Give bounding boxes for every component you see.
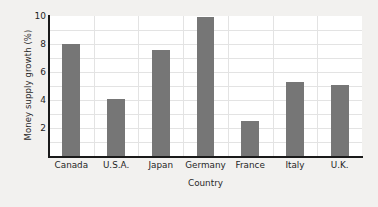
y-axis-line bbox=[48, 15, 50, 157]
y-tick-label: 4 bbox=[40, 95, 46, 105]
x-tick-label-u-k: U.K. bbox=[331, 160, 349, 170]
x-axis-line bbox=[48, 156, 363, 158]
plot-area bbox=[49, 16, 362, 156]
bar-u-s-a[interactable] bbox=[107, 99, 125, 156]
bar-germany[interactable] bbox=[197, 17, 215, 156]
y-axis-tick-labels: 246810 bbox=[28, 16, 46, 156]
x-tick-label-u-s-a: U.S.A. bbox=[103, 160, 129, 170]
x-tick-label-italy: Italy bbox=[285, 160, 304, 170]
y-tick-label: 6 bbox=[40, 67, 46, 77]
y-tick-label: 2 bbox=[40, 123, 46, 133]
bar-italy[interactable] bbox=[286, 82, 304, 156]
x-axis-tick-labels: CanadaU.S.A.JapanGermanyFranceItalyU.K. bbox=[49, 160, 362, 176]
bar-japan[interactable] bbox=[152, 50, 170, 156]
x-tick-label-japan: Japan bbox=[149, 160, 174, 170]
x-axis-title: Country bbox=[49, 178, 362, 188]
bars-layer bbox=[49, 16, 362, 156]
bar-u-k[interactable] bbox=[331, 85, 349, 156]
x-tick-label-france: France bbox=[236, 160, 265, 170]
y-tick-label: 10 bbox=[35, 11, 46, 21]
x-tick-label-germany: Germany bbox=[185, 160, 225, 170]
bar-canada[interactable] bbox=[62, 44, 80, 156]
bar-chart-figure: Money supply growth (%) 246810 CanadaU.S… bbox=[0, 0, 378, 207]
x-tick-label-canada: Canada bbox=[55, 160, 88, 170]
y-tick-label: 8 bbox=[40, 39, 46, 49]
bar-france[interactable] bbox=[241, 121, 259, 156]
